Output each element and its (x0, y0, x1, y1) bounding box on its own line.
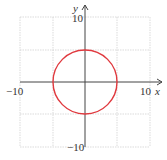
x-axis-label: x (154, 85, 160, 97)
chart-plot: −10 10 x y 10 −10 (0, 0, 167, 160)
x-max-label: 10 (140, 85, 152, 97)
x-min-label: −10 (6, 85, 24, 97)
axes (20, 5, 162, 147)
y-max-label: 10 (72, 12, 84, 24)
y-min-label: −10 (67, 141, 85, 153)
